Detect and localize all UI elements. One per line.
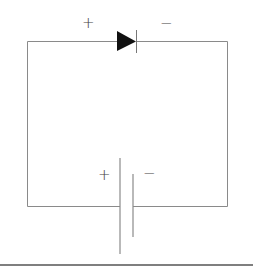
diode-plus-label: + xyxy=(82,16,95,31)
circuit-wires xyxy=(28,42,228,207)
diode-symbol xyxy=(117,30,137,53)
diode-minus-label: − xyxy=(160,16,173,31)
battery-symbol xyxy=(120,158,133,254)
diode-triangle-icon xyxy=(117,31,136,51)
circuit-diagram xyxy=(0,0,253,272)
battery-minus-label: − xyxy=(143,166,156,181)
battery-plus-label: + xyxy=(98,168,111,183)
